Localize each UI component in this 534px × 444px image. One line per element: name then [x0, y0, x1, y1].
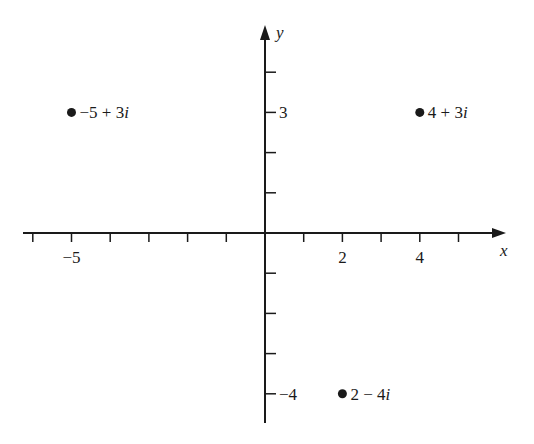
data-point: −5 + 3i — [67, 103, 129, 122]
y-axis-label: y — [274, 23, 284, 42]
y-axis-arrow-icon — [260, 25, 270, 40]
x-tick-label: 4 — [416, 248, 425, 267]
y-tick-label: −4 — [279, 385, 298, 404]
x-axis-label: x — [499, 241, 508, 260]
x-tick-label: −5 — [62, 248, 80, 267]
y-tick-labels: 3−4 — [279, 103, 298, 403]
complex-plane-plot: −524 3−4 x y −5 + 3i4 + 3i2 − 4i — [0, 0, 534, 444]
y-tick-label: 3 — [279, 103, 288, 122]
data-points: −5 + 3i4 + 3i2 − 4i — [67, 103, 468, 403]
point-marker-icon — [67, 108, 76, 117]
point-marker-icon — [338, 389, 347, 398]
x-tick-label: 2 — [338, 248, 347, 267]
x-ticks — [33, 233, 459, 242]
point-label: −5 + 3i — [80, 103, 130, 122]
point-label: 2 − 4i — [350, 385, 390, 404]
x-axis-arrow-icon — [492, 228, 506, 238]
data-point: 2 − 4i — [338, 385, 391, 404]
axes — [23, 36, 496, 423]
point-marker-icon — [415, 108, 424, 117]
x-tick-labels: −524 — [62, 248, 424, 267]
point-label: 4 + 3i — [428, 103, 468, 122]
data-point: 4 + 3i — [415, 103, 468, 122]
